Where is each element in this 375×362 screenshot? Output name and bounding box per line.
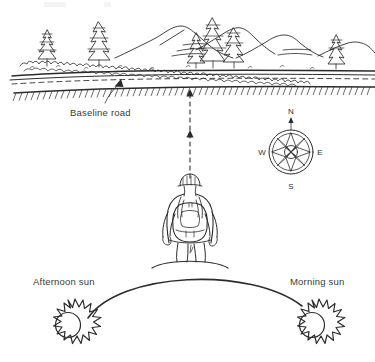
illustration-canvas: Orientation diagram: hiker facing mounta… (0, 0, 375, 362)
conifer-tree (328, 35, 345, 69)
morning-sun-label: Morning sun (290, 276, 344, 287)
sight-line (186, 89, 193, 178)
scan-artifact-left (44, 2, 66, 7)
morning-sun-icon: Morning sun (290, 276, 345, 344)
baseline-road-callout: Baseline road (70, 79, 131, 118)
conifer-tree (88, 22, 110, 67)
sight-line-arrowhead-middle (186, 130, 193, 138)
compass-west-label: W (258, 148, 266, 157)
hiker-figure (152, 174, 228, 268)
afternoon-sun-label: Afternoon sun (33, 276, 95, 287)
sight-line-arrowhead-upper (186, 89, 193, 97)
callout-arrowhead (115, 79, 124, 87)
conifer-tree (200, 18, 226, 68)
conifer-trees (38, 18, 345, 69)
orientation-diagram: Orientation diagram: hiker facing mounta… (0, 0, 375, 362)
baseline-road-label: Baseline road (70, 107, 131, 118)
compass-east-label: E (317, 148, 322, 157)
compass-north-label: N (288, 107, 294, 116)
mountain-range (115, 26, 375, 58)
conifer-tree (38, 30, 56, 66)
sun-path-arc (88, 279, 302, 318)
scan-artifact-right (104, 2, 111, 7)
afternoon-sun-icon: Afternoon sun (33, 276, 101, 344)
compass-south-label: S (288, 182, 293, 191)
compass-rose: N E S W (258, 107, 322, 191)
